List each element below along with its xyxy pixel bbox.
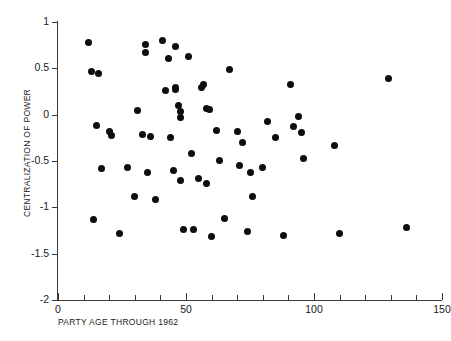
data-point (287, 81, 294, 88)
y-tick (52, 115, 58, 116)
data-point (403, 224, 410, 231)
data-point (159, 37, 166, 44)
x-tick-minor (416, 295, 417, 300)
x-tick-minor (160, 295, 161, 300)
y-tick-label: -2 (40, 294, 49, 305)
data-point (385, 75, 392, 82)
x-tick-minor (263, 295, 264, 300)
y-tick-label: -1 (40, 201, 49, 212)
x-tick-minor (391, 295, 392, 300)
data-point (147, 133, 154, 140)
data-point (221, 215, 228, 222)
data-point (234, 128, 241, 135)
x-tick-major (314, 293, 315, 300)
y-tick-label: 0 (43, 109, 49, 120)
data-point (295, 113, 302, 120)
data-point (172, 86, 179, 93)
data-point (93, 122, 100, 129)
data-point (331, 142, 338, 149)
data-point (236, 162, 243, 169)
data-point (185, 53, 192, 60)
y-tick-label: -1.5 (31, 248, 49, 259)
x-tick-minor (84, 295, 85, 300)
data-point (124, 164, 131, 171)
data-point (88, 68, 95, 75)
data-point (152, 196, 159, 203)
y-tick (52, 68, 58, 69)
data-point (177, 177, 184, 184)
data-point (247, 169, 254, 176)
x-tick-major (442, 293, 443, 300)
x-tick-label: 50 (180, 303, 192, 315)
data-point (108, 132, 115, 139)
data-point (216, 157, 223, 164)
x-tick-minor (288, 295, 289, 300)
data-point (336, 230, 343, 237)
x-tick-minor (135, 295, 136, 300)
data-point (239, 139, 246, 146)
y-tick (52, 300, 58, 301)
data-point (165, 55, 172, 62)
data-point (259, 164, 266, 171)
data-point (131, 193, 138, 200)
data-point (244, 228, 251, 235)
x-tick-major (186, 293, 187, 300)
data-point (272, 134, 279, 141)
x-axis-label: PARTY AGE THROUGH 1962 (58, 317, 178, 327)
x-tick-label: 100 (305, 303, 323, 315)
x-tick-minor (109, 295, 110, 300)
x-tick-minor (340, 295, 341, 300)
data-point (116, 230, 123, 237)
x-tick-minor (212, 295, 213, 300)
y-tick (52, 254, 58, 255)
y-tick-label: -0.5 (31, 155, 49, 166)
x-tick-minor (237, 295, 238, 300)
data-point (300, 155, 307, 162)
data-point (188, 150, 195, 157)
data-point (139, 131, 146, 138)
data-point (213, 127, 220, 134)
data-point (85, 39, 92, 46)
y-tick-label: 1 (43, 16, 49, 27)
data-point (172, 43, 179, 50)
data-point (162, 87, 169, 94)
data-point (142, 49, 149, 56)
data-point (280, 232, 287, 239)
x-tick-label: 150 (433, 303, 451, 315)
data-point (167, 134, 174, 141)
data-point (249, 193, 256, 200)
data-point (144, 169, 151, 176)
x-axis-line (57, 300, 442, 301)
data-point (206, 106, 213, 113)
y-tick-label: 0.5 (34, 62, 49, 73)
data-point (134, 107, 141, 114)
x-tick-minor (365, 295, 366, 300)
data-point (90, 216, 97, 223)
data-point (95, 70, 102, 77)
y-tick (52, 22, 58, 23)
data-point (298, 129, 305, 136)
data-point (177, 114, 184, 121)
y-tick (52, 161, 58, 162)
data-point (170, 167, 177, 174)
x-tick-major (58, 293, 59, 300)
data-point (264, 118, 271, 125)
chart-title: FIGURE 4.2 Centralization of Power (0, 0, 443, 2)
data-point (180, 226, 187, 233)
data-point (142, 41, 149, 48)
data-point (195, 175, 202, 182)
data-point (226, 66, 233, 73)
data-point (98, 165, 105, 172)
y-axis-label: CENTRALIZATION OF POWER (22, 58, 32, 248)
data-point (208, 233, 215, 240)
x-tick-label: 0 (55, 303, 61, 315)
data-point (200, 81, 207, 88)
y-tick (52, 207, 58, 208)
data-point (190, 226, 197, 233)
data-point (290, 123, 297, 130)
data-point (203, 180, 210, 187)
